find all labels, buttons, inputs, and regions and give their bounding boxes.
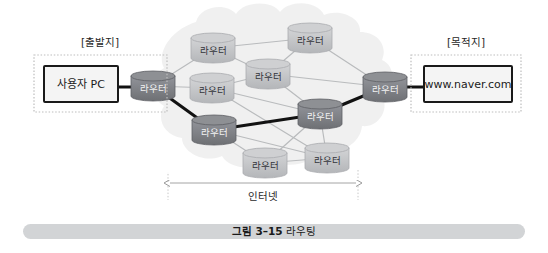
figure-caption-number: 그림 3–15 [232,225,283,237]
network-diagram: 라우터라우터라우터라우터라우터라우터라우터라우터라우터라우터 [출발지] 사용자… [0,0,548,253]
router-label: 라우터 [140,83,167,94]
router-label: 라우터 [252,160,279,171]
router-node[interactable]: 라우터 [191,33,235,63]
router-label: 라우터 [372,84,399,95]
router-node[interactable]: 라우터 [246,59,290,89]
figure-caption-bar: 그림 3–15 라우팅 [23,224,525,239]
router-label: 라우터 [201,127,228,138]
router-node[interactable]: 라우터 [305,143,349,173]
internet-span-label: 인터넷 [248,190,278,202]
router-label: 라우터 [200,45,227,56]
figure-routing: 라우터라우터라우터라우터라우터라우터라우터라우터라우터라우터 [출발지] 사용자… [0,0,548,253]
destination-host-label: www.naver.com [425,78,512,91]
router-label: 라우터 [255,71,282,82]
router-node[interactable]: 라우터 [190,73,234,103]
destination-zone: [목적지] www.naver.com [411,36,521,112]
router-node[interactable]: 라우터 [131,71,175,101]
source-zone-title: [출발지] [81,36,119,48]
user-pc-label: 사용자 PC [57,78,105,91]
figure-caption: 그림 3–15 라우팅 [232,225,316,237]
router-node[interactable]: 라우터 [363,72,407,102]
figure-caption-title: 라우팅 [286,225,316,237]
router-label: 라우터 [314,155,341,166]
router-node[interactable]: 라우터 [192,115,236,145]
router-label: 라우터 [199,85,226,96]
destination-zone-title: [목적지] [447,36,485,48]
router-node[interactable]: 라우터 [243,148,287,178]
router-label: 라우터 [307,111,334,122]
router-node[interactable]: 라우터 [298,99,342,129]
router-node[interactable]: 라우터 [288,23,332,53]
router-label: 라우터 [297,35,324,46]
